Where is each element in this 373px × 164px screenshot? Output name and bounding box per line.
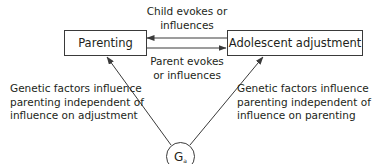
node-parenting-label: Parenting: [78, 36, 133, 50]
node-genes-circle: Ga: [166, 142, 195, 164]
edge-label-child-evokes: Child evokes or influences: [140, 5, 234, 32]
node-parenting: Parenting: [64, 30, 147, 56]
node-adolescent-adjustment: Adolescent adjustment: [227, 30, 363, 56]
genes-symbol: Ga: [174, 150, 187, 164]
edge-label-parent-evokes: Parent evokes or influences: [140, 55, 234, 82]
node-adjustment-label: Adolescent adjustment: [229, 36, 362, 50]
edge-label-genes-to-parenting: Genetic factors influence parenting inde…: [10, 82, 144, 123]
edge-label-genes-to-adjustment: Genetic factors influence parenting inde…: [237, 82, 371, 123]
diagram-canvas: Parenting Adolescent adjustment Child ev…: [0, 0, 373, 164]
